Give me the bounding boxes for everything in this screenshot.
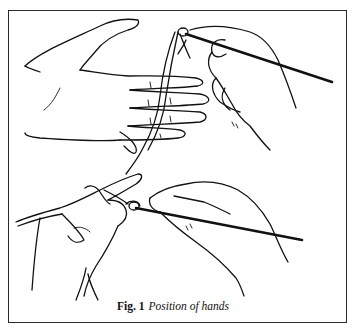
figure-title: Position of hands <box>148 300 229 312</box>
figure-label: Fig. 1 <box>117 300 144 312</box>
top-right-hand <box>178 26 332 150</box>
top-left-hand <box>25 19 209 174</box>
figure-caption: Fig. 1Position of hands <box>117 300 229 312</box>
hands-illustration <box>0 0 356 329</box>
bottom-left-hand <box>16 174 142 300</box>
bottom-right-hand <box>126 182 302 296</box>
